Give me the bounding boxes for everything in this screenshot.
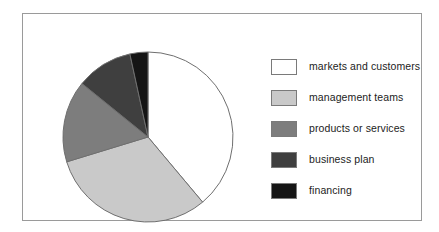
legend-item[interactable]: business plan	[271, 151, 439, 168]
legend-swatch-markets-and-customers	[271, 59, 297, 75]
pie-chart-svg	[62, 51, 234, 223]
legend-item[interactable]: products or services	[271, 120, 439, 137]
legend-swatch-management-teams	[271, 90, 297, 106]
legend-label: products or services	[309, 123, 405, 134]
legend-item[interactable]: markets and customers	[271, 58, 439, 75]
legend-label: business plan	[309, 154, 375, 165]
legend-swatch-financing	[271, 183, 297, 199]
legend-label: markets and customers	[309, 61, 420, 72]
legend-label: financing	[309, 185, 352, 196]
figure-border: markets and customers management teams p…	[22, 13, 422, 221]
pie-chart-figure: markets and customers management teams p…	[0, 0, 439, 232]
chart-legend: markets and customers management teams p…	[271, 58, 439, 199]
legend-swatch-products-or-services	[271, 121, 297, 137]
legend-item[interactable]: management teams	[271, 89, 439, 106]
legend-item[interactable]: financing	[271, 182, 439, 199]
legend-label: management teams	[309, 92, 403, 103]
legend-swatch-business-plan	[271, 152, 297, 168]
pie-chart-area	[62, 51, 234, 223]
